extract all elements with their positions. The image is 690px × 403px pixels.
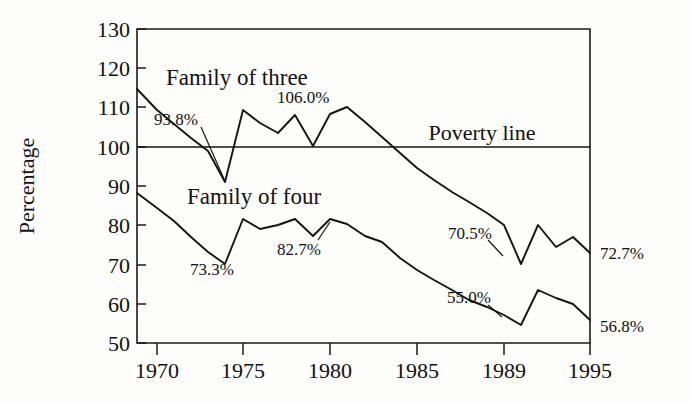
annotation-56-8: 56.8% <box>600 317 644 336</box>
x-tick-label-1989: 1989 <box>482 358 526 383</box>
annotation-label-93-8: 93.8% <box>154 110 198 129</box>
x-tick-label-1975: 1975 <box>221 358 265 383</box>
poverty-line-label: Poverty line <box>429 120 536 145</box>
y-axis-tick-labels: 130 120 110 100 90 80 70 60 50 <box>97 17 130 356</box>
y-tick-label-50: 50 <box>108 331 130 356</box>
y-tick-label-110: 110 <box>98 95 130 120</box>
annotation-label-82-7: 82.7% <box>277 240 321 259</box>
annotation-label-106-0: 106.0% <box>277 88 329 107</box>
series-family-of-three <box>137 89 590 264</box>
y-axis-title: Percentage <box>14 138 39 235</box>
x-axis-ticks <box>157 343 590 355</box>
annotation-70-5: 70.5% <box>448 224 503 256</box>
annotation-72-7: 72.7% <box>600 244 644 263</box>
x-tick-label-1970: 1970 <box>135 358 179 383</box>
y-tick-label-60: 60 <box>108 292 130 317</box>
x-tick-label-1985: 1985 <box>395 358 439 383</box>
y-tick-label-130: 130 <box>97 17 130 42</box>
y-axis-ticks <box>137 29 146 343</box>
annotation-label-73-3: 73.3% <box>190 260 234 279</box>
annotation-label-55-0: 55.0% <box>447 288 491 307</box>
poverty-threshold-line-chart: 130 120 110 100 90 80 70 60 50 1970 1975… <box>0 0 690 403</box>
y-tick-label-90: 90 <box>108 174 130 199</box>
annotation-73-3: 73.3% <box>190 260 234 279</box>
annotation-106-0: 106.0% <box>277 88 329 107</box>
annotation-55-0: 55.0% <box>447 288 502 317</box>
annotation-label-56-8: 56.8% <box>600 317 644 336</box>
y-tick-label-100: 100 <box>97 135 130 160</box>
annotation-label-72-7: 72.7% <box>600 244 644 263</box>
annotation-label-70-5: 70.5% <box>448 224 492 243</box>
x-tick-label-1995: 1995 <box>568 358 612 383</box>
y-tick-label-80: 80 <box>108 213 130 238</box>
series-label-family-of-three: Family of three <box>166 65 308 90</box>
y-tick-label-70: 70 <box>108 253 130 278</box>
x-tick-label-1980: 1980 <box>308 358 352 383</box>
annotation-93-8: 93.8% <box>154 110 224 179</box>
x-axis-tick-labels: 1970 1975 1980 1985 1989 1995 <box>135 358 612 383</box>
chart-page: 130 120 110 100 90 80 70 60 50 1970 1975… <box>0 0 690 403</box>
y-tick-label-120: 120 <box>97 56 130 81</box>
series-family-of-four <box>137 193 590 325</box>
series-label-family-of-four: Family of four <box>187 184 321 209</box>
